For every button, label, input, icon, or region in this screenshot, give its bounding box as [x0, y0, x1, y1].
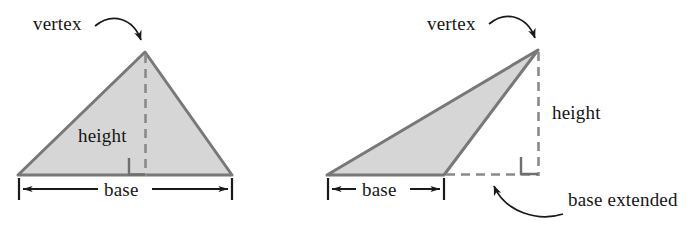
obtuse-vertex-pointer-arrow [489, 16, 535, 38]
geometry-diagram: vertex height base vertex height base ba… [0, 0, 699, 230]
obtuse-triangle-shape [327, 50, 538, 175]
obtuse-vertex-label: vertex [427, 14, 476, 33]
obtuse-right-angle-marker [521, 157, 538, 174]
obtuse-height-label: height [552, 103, 601, 122]
base-extended-label: base extended [568, 190, 678, 209]
base-extended-pointer-arrow [494, 186, 563, 217]
obtuse-base-label: base [362, 180, 397, 199]
acute-triangle-group [18, 18, 232, 200]
acute-vertex-pointer-arrow [95, 18, 141, 40]
acute-vertex-label: vertex [33, 14, 82, 33]
acute-height-label: height [78, 126, 127, 145]
acute-base-label: base [104, 180, 139, 199]
acute-triangle-shape [18, 52, 232, 175]
